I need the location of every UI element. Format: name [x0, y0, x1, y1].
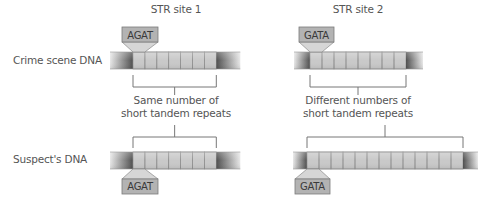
row-label-crime-scene-dna: Crime scene DNA: [13, 54, 102, 66]
site-1-caption-line-1: Same number of: [121, 94, 231, 107]
site-1-crime-repeat-unit-label: AGAT: [127, 30, 152, 41]
site-2-caption-line-2: short tandem repeats: [303, 107, 413, 120]
site-1-caption: Same number of short tandem repeats: [121, 94, 231, 120]
site-2-suspect-tag-pointer: [295, 169, 330, 179]
site-2-suspect-bracket: [307, 125, 463, 148]
site-1-suspect-tag-pointer: [122, 169, 158, 179]
site-2-title: STR site 2: [333, 3, 384, 15]
row-label-suspects-dna: Suspect's DNA: [13, 153, 87, 165]
site-2-crime-bracket: [310, 75, 406, 95]
site-1-suspect-bracket: [133, 125, 216, 148]
site-2-crime-repeat-unit-label: GATA: [304, 30, 329, 41]
site-1-suspect-dna-bar-bar-shade: [110, 152, 240, 169]
site-1-suspect-repeat-unit-label: AGAT: [127, 181, 152, 192]
site-1-crime-dna-bar-bar-shade: [110, 52, 240, 69]
diagram-graphics: [0, 0, 493, 208]
site-2-crime-tag-pointer: [299, 42, 334, 52]
site-2-caption-line-1: Different numbers of: [303, 94, 413, 107]
site-1-title: STR site 1: [151, 3, 202, 15]
site-2-suspect-repeat-unit-label: GATA: [300, 181, 325, 192]
site-2-caption: Different numbers of short tandem repeat…: [303, 94, 413, 120]
site-1-caption-line-2: short tandem repeats: [121, 107, 231, 120]
site-1-crime-tag-pointer: [122, 42, 158, 52]
str-diagram: Crime scene DNA Suspect's DNA STR site 1…: [0, 0, 493, 208]
site-2-suspect-dna-bar-bar-shade: [293, 152, 478, 169]
site-1-crime-bracket: [133, 75, 216, 95]
site-2-crime-dna-bar-bar-shade: [294, 52, 423, 69]
